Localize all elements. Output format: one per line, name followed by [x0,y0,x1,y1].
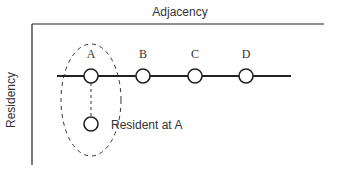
node-a: A [84,47,98,83]
node-c: C [188,47,202,83]
node-circle [136,69,150,83]
node-b: B [136,47,150,83]
node-label: B [139,47,147,61]
node-circle [239,69,253,83]
resident-node: Resident at A [84,117,182,132]
node-label: A [87,47,96,61]
node-circle [84,69,98,83]
top-axis-label: Adjacency [152,5,207,19]
adjacency-residency-diagram: Adjacency Residency A B C D Resident at … [0,0,337,174]
node-d: D [239,47,253,83]
left-axis-label: Residency [4,72,18,128]
node-label: D [242,47,251,61]
resident-label: Resident at A [111,118,182,132]
resident-circle [84,117,98,131]
node-circle [188,69,202,83]
node-label: C [191,47,199,61]
